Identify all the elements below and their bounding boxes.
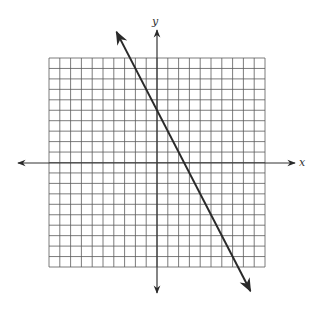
graph-line bbox=[117, 32, 251, 291]
coordinate-plane: x y bbox=[0, 0, 318, 311]
y-axis-label: y bbox=[151, 15, 159, 28]
x-axis-label: x bbox=[299, 156, 306, 169]
